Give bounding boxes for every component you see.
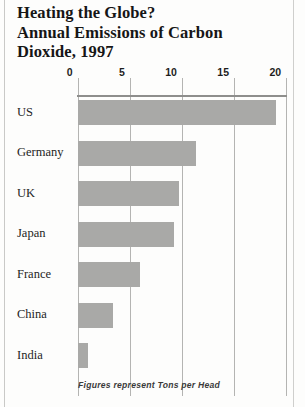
x-axis-tick-mark	[182, 78, 183, 95]
bar	[78, 181, 179, 206]
bar	[78, 303, 113, 328]
x-axis-gridline	[286, 96, 287, 396]
bar-category-label: France	[17, 267, 51, 282]
bar	[78, 222, 174, 247]
x-axis-tick-label: 20	[269, 66, 285, 78]
bar-category-label: Germany	[17, 145, 64, 160]
x-axis-line	[77, 95, 287, 97]
x-axis-tick-label: 0	[67, 66, 77, 78]
x-axis-tick-label: 10	[165, 66, 181, 78]
bar	[78, 141, 197, 166]
bar	[78, 262, 141, 287]
x-axis-gridline	[234, 96, 235, 396]
bar	[78, 100, 276, 125]
bar-category-label: UK	[17, 186, 35, 201]
bar-category-label: Japan	[17, 226, 45, 241]
x-axis-tick-mark	[130, 78, 131, 95]
x-axis-tick-mark	[78, 78, 79, 95]
x-axis-tick-mark	[234, 78, 235, 95]
bar-category-label: India	[17, 348, 43, 363]
x-axis-tick-label: 5	[119, 66, 129, 78]
bar	[78, 343, 88, 368]
chart-footnote: Figures represent Tons per Head	[78, 380, 220, 390]
x-axis-tick-mark	[286, 78, 287, 95]
bar-chart: 05101520 USGermanyUKJapanFranceChinaIndi…	[0, 0, 305, 407]
x-axis-tick-label: 15	[217, 66, 233, 78]
chart-page: Heating the Globe? Annual Emissions of C…	[0, 0, 305, 407]
bar-category-label: US	[17, 105, 33, 120]
bar-category-label: China	[17, 307, 47, 322]
